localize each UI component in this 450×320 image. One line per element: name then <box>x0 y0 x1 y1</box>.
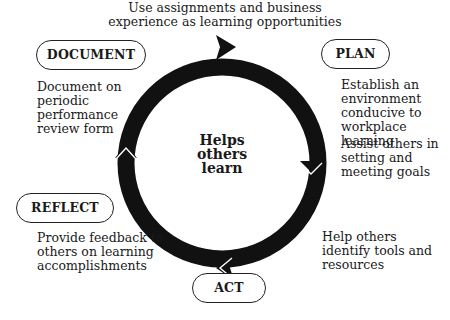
stage-reflect-desc: Provide feedback to others on learning a… <box>37 231 163 273</box>
desc-line: resources <box>322 258 432 272</box>
desc-line: identify tools and <box>322 244 432 258</box>
desc-line: performance <box>37 108 121 122</box>
center-line-2: others <box>182 147 262 161</box>
center-line-1: Helps <box>182 133 262 147</box>
center-line-3: learn <box>182 161 262 175</box>
desc-line: environment <box>341 92 450 106</box>
desc-line: Establish an <box>341 78 450 92</box>
stage-act-label: ACT <box>214 280 244 295</box>
stage-act-pill: ACT <box>192 273 266 303</box>
stage-plan-desc-2: Assist others in setting and meeting goa… <box>341 137 439 179</box>
desc-line: Assist others in <box>341 137 439 151</box>
desc-line: meeting goals <box>341 165 439 179</box>
stage-plan-label: PLAN <box>335 46 375 61</box>
desc-line: others on learning <box>37 245 163 259</box>
desc-line: conducive to <box>341 106 450 120</box>
stage-reflect-label: REFLECT <box>31 200 99 215</box>
desc-line: accomplishments <box>37 259 163 273</box>
stage-act-desc: Help others identify tools and resources <box>322 230 432 272</box>
stage-document-label: DOCUMENT <box>47 47 135 62</box>
desc-line: Document on <box>37 80 121 94</box>
desc-line: Provide feedback to <box>37 231 163 245</box>
desc-line: review form <box>37 122 121 136</box>
arrow-top-icon <box>216 35 236 60</box>
desc-line: Help others <box>322 230 432 244</box>
stage-document-desc: Document on periodic performance review … <box>37 80 121 136</box>
center-label: Helps others learn <box>182 133 262 175</box>
stage-reflect-pill: REFLECT <box>16 193 114 223</box>
desc-line: periodic <box>37 94 121 108</box>
stage-document-pill: DOCUMENT <box>36 40 146 70</box>
stage-plan-pill: PLAN <box>321 39 390 69</box>
desc-line: setting and <box>341 151 439 165</box>
